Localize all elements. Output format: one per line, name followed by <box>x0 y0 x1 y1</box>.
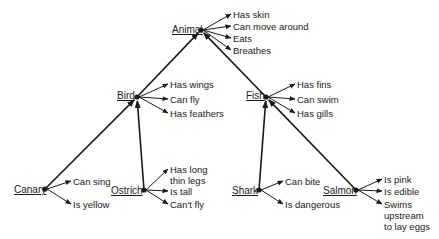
property-label: Has fins <box>297 79 332 90</box>
node-label-fish: Fish <box>246 90 265 101</box>
property-arrow <box>268 97 295 99</box>
node-label-animal: Animal <box>172 24 203 35</box>
property-label: Is edible <box>384 186 419 197</box>
property-label: thin legs <box>170 175 206 186</box>
property-label: Can sing <box>73 176 111 187</box>
property-label: Has gills <box>297 108 333 119</box>
property-arrow <box>139 97 168 99</box>
property-arrow <box>268 97 295 113</box>
property-arrow <box>358 179 382 190</box>
property-label: Has wings <box>170 79 214 90</box>
property-links: Has skinCan move aroundEatsBreathesHas w… <box>47 9 430 232</box>
property-label: Has skin <box>233 9 269 20</box>
property-label: Is pink <box>384 174 412 185</box>
node-ostrich: Ostrich <box>111 185 147 196</box>
property-label: Can move around <box>233 21 309 32</box>
property-label: Can bite <box>285 176 320 187</box>
node-dot <box>134 94 139 99</box>
property-label: Swims <box>384 199 412 210</box>
semantic-network-diagram: Has skinCan move aroundEatsBreathesHas w… <box>0 0 439 239</box>
property-label: Is yellow <box>73 199 110 210</box>
node-animal: Animal <box>172 24 204 35</box>
property-label: upstream <box>384 210 424 221</box>
property-arrow <box>358 190 382 204</box>
property-label: to lay eggs <box>384 221 430 232</box>
node-fish: Fish <box>246 90 269 101</box>
property-label: Is dangerous <box>285 199 340 210</box>
property-arrow <box>139 97 168 113</box>
node-salmon: Salmon <box>323 185 359 196</box>
property-arrow <box>261 181 283 190</box>
property-label: Can't fly <box>170 199 204 210</box>
property-label: Has long <box>170 164 208 175</box>
property-arrow <box>146 190 168 191</box>
property-arrow <box>47 189 71 204</box>
node-shark: Shark <box>232 185 262 196</box>
node-label-shark: Shark <box>232 185 259 196</box>
property-arrow <box>358 190 382 191</box>
property-arrow <box>261 190 283 204</box>
node-bird: Bird <box>117 90 140 101</box>
property-label: Eats <box>233 33 252 44</box>
node-label-ostrich: Ostrich <box>111 185 143 196</box>
isa-edge-ostrich-to-bird <box>137 101 144 190</box>
node-canary: Canary <box>14 184 48 195</box>
property-arrow <box>47 181 71 189</box>
property-arrow <box>146 169 168 190</box>
property-label: Can fly <box>170 94 200 105</box>
property-label: Is tall <box>170 186 192 197</box>
property-label: Breathes <box>233 45 271 56</box>
isa-edge-shark-to-fish <box>259 101 266 190</box>
node-label-canary: Canary <box>14 184 46 195</box>
node-label-bird: Bird <box>117 90 135 101</box>
node-label-salmon: Salmon <box>323 185 357 196</box>
property-arrow <box>146 190 168 204</box>
property-label: Has feathers <box>170 108 224 119</box>
property-label: Can swim <box>297 94 339 105</box>
property-arrow <box>268 84 295 97</box>
